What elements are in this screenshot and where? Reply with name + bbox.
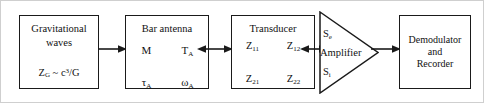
transducer-symbol-z21: Z21 (246, 72, 259, 89)
bar-antenna-title: Bar antenna (142, 23, 192, 35)
block-demodulator-and-recorder: Demodulator and Recorder (399, 15, 471, 89)
arrow-waves-to-antenna (98, 43, 127, 55)
symbol-base: ω (181, 76, 188, 88)
formula-denominator: /G (69, 67, 80, 78)
symbol-base: M (142, 44, 152, 56)
demodulator-line-2: and (428, 46, 442, 58)
amplifier-input-noise-label: Si (323, 66, 331, 81)
arrow-amplifier-to-demodulator (371, 43, 401, 55)
demodulator-line-1: Demodulator (409, 34, 462, 46)
bar-antenna-symbol-mass: M (142, 44, 152, 61)
amplifier-output-noise-label: Se (323, 28, 332, 43)
transducer-symbol-z22: Z22 (287, 72, 300, 89)
symbol-subscript: 21 (252, 77, 259, 85)
transducer-title: Transducer (250, 23, 297, 35)
transducer-symbol-z11: Z11 (246, 39, 259, 56)
bar-antenna-symbol-angular-frequency: ωA (181, 76, 193, 93)
transducer-symbol-z12: Z12 (287, 39, 300, 56)
symbol-subscript: 22 (293, 77, 300, 85)
amplifier-triangle: Se Amplifier Si (319, 11, 379, 94)
gravitational-waves-title-line-2: waves (46, 37, 72, 49)
bar-antenna-symbol-temperature: TA (182, 44, 194, 61)
block-diagram-canvas: Gravitational waves ZG ~ c3/G Bar antenn… (0, 0, 484, 103)
gravitational-waves-title-line-1: Gravitational (31, 23, 86, 35)
symbol-subscript: e (329, 33, 332, 41)
symbol-subscript: i (329, 71, 331, 79)
symbol-subscript: A (189, 81, 194, 89)
arrow-antenna-to-transducer (197, 43, 233, 55)
symbol-subscript: A (188, 50, 193, 58)
symbol-subscript: 11 (252, 45, 259, 53)
bar-antenna-parameter-grid: M TA τA ωA (126, 44, 208, 92)
demodulator-line-3: Recorder (417, 58, 454, 70)
gravitational-waves-impedance-formula: ZG ~ c3/G (38, 65, 79, 81)
bar-antenna-symbol-relaxation-time: τA (142, 76, 151, 93)
formula-relation: ~ (50, 67, 61, 78)
block-gravitational-waves: Gravitational waves ZG ~ c3/G (19, 15, 99, 89)
amplifier-label: Amplifier (320, 47, 361, 59)
symbol-subscript: A (146, 81, 151, 89)
